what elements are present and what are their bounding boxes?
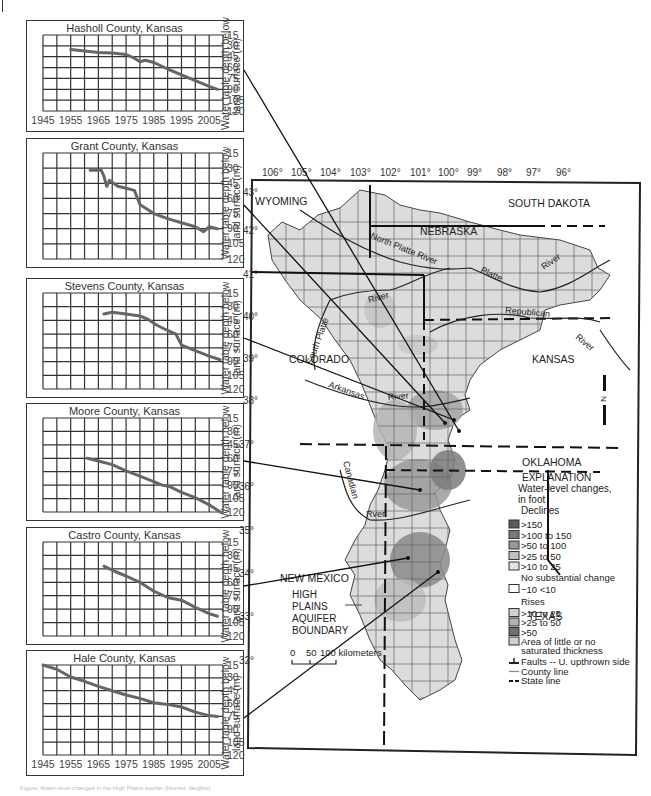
- aquifer-boundary-label: BOUNDARY: [292, 625, 349, 636]
- state-label-kansas: KANSAS: [532, 353, 575, 365]
- aquifer-boundary-label: PLAINS: [292, 601, 328, 612]
- svg-text:Rises: Rises: [521, 596, 545, 607]
- longitude-label: 100°: [438, 167, 459, 178]
- longitude-label: 98°: [497, 167, 512, 178]
- longitude-label: 101°: [410, 167, 431, 178]
- river-label: Rver: [366, 509, 385, 519]
- state-label-nebraska: NEBRASKA: [420, 225, 477, 237]
- longitude-label: 106°: [262, 167, 283, 178]
- svg-text:saturated thickness: saturated thickness: [521, 645, 603, 656]
- longitude-label: 103°: [350, 167, 371, 178]
- svg-text:>50 to 100: >50 to 100: [521, 540, 566, 551]
- longitude-label: 102°: [380, 167, 401, 178]
- figure-caption: Figure: Water-level changes in the High …: [20, 785, 260, 791]
- latitude-label: 40°: [243, 311, 258, 322]
- north-arrow-icon: N: [599, 396, 608, 402]
- latitude-label: 35°: [239, 525, 254, 536]
- scale-bar-label: 0: [290, 647, 295, 658]
- longitude-label: 99°: [467, 167, 482, 178]
- latitude-label: 38°: [243, 395, 258, 406]
- longitude-label: 96°: [556, 167, 571, 178]
- scale-bar-label: 100 kilometers: [320, 647, 382, 658]
- aquifer-map: N106°105°104°103°102°101°100°99°98°97°96…: [0, 0, 651, 796]
- latitude-label: 34°: [239, 568, 254, 579]
- state-label-oklahoma: OKLAHOMA: [522, 456, 582, 468]
- svg-text:>100 to 150: >100 to 150: [521, 530, 571, 541]
- state-label-wyoming: WYOMING: [255, 195, 308, 207]
- latitude-label: 41°: [243, 269, 258, 280]
- svg-text:State line: State line: [521, 675, 561, 686]
- latitude-label: 33°: [239, 611, 254, 622]
- svg-text:in foot: in foot: [518, 494, 545, 505]
- aquifer-boundary-label: HIGH: [292, 589, 317, 600]
- svg-text:>150: >150: [521, 519, 542, 530]
- latitude-label: 32°: [239, 655, 254, 666]
- aquifer-boundary-label: AQUIFER: [292, 613, 336, 624]
- svg-text:>25 to 50: >25 to 50: [521, 551, 561, 562]
- svg-text:>10 to 25: >10 to 25: [521, 561, 561, 572]
- scale-bar-label: 50: [306, 647, 317, 658]
- latitude-label: 39°: [243, 353, 258, 364]
- svg-text:No substantial change: No substantial change: [521, 572, 615, 583]
- latitude-label: 42°: [243, 225, 258, 236]
- svg-text:−10 <10: −10 <10: [521, 584, 556, 595]
- svg-text:EXPLANATION: EXPLANATION: [522, 472, 591, 483]
- svg-text:Water-level changes,: Water-level changes,: [518, 483, 612, 494]
- longitude-label: 105°: [291, 167, 312, 178]
- state-label-south-dakota: SOUTH DAKOTA: [508, 197, 590, 209]
- longitude-label: 104°: [320, 167, 341, 178]
- svg-text:Declines: Declines: [521, 505, 559, 516]
- river-label: River: [387, 390, 409, 402]
- latitude-label: 36°: [239, 481, 254, 492]
- longitude-label: 97°: [526, 167, 541, 178]
- latitude-label: 37°: [239, 439, 254, 450]
